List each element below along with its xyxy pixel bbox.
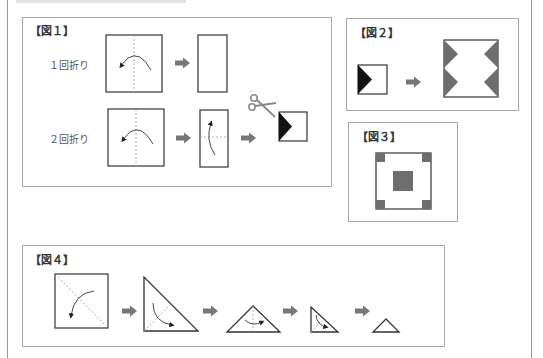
fig1-row2-rectangle [200, 110, 228, 167]
arrow-icon [203, 306, 218, 317]
arrow-icon [406, 77, 421, 88]
fig1-row2-square [108, 109, 164, 166]
fig4-right-triangle [144, 277, 198, 331]
arrow-icon [355, 306, 370, 317]
fig2-unfolded-square [444, 40, 498, 97]
arrow-icon [175, 58, 190, 69]
fig4-isosceles-triangle [227, 306, 280, 332]
arrow-icon [241, 133, 256, 144]
fig1-row1-square [106, 35, 162, 92]
fig1-cut-square [279, 112, 307, 141]
scissors-icon [249, 90, 276, 117]
fig3-square-pattern [376, 153, 431, 209]
fig2-small-square [358, 65, 387, 94]
fig1-row1-rectangle [198, 35, 227, 92]
fig4-small-triangle [373, 319, 399, 332]
fig4-square-diagonal [55, 274, 108, 328]
arrow-icon [122, 306, 137, 317]
arrow-icon [176, 133, 191, 144]
fig4-small-right-triangle [311, 307, 338, 332]
arrow-icon [283, 306, 298, 317]
